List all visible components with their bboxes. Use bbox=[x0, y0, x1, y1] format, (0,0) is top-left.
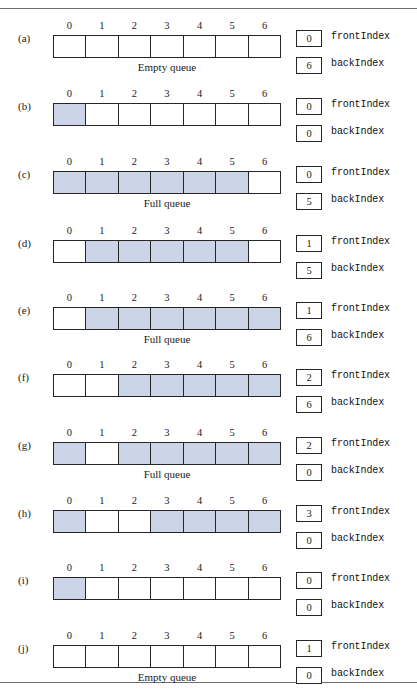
array-index-label: 4 bbox=[183, 20, 216, 31]
frontIndex-name-label: frontIndex bbox=[331, 370, 390, 381]
array-index-label: 6 bbox=[248, 225, 281, 236]
queue-row: (d)01234561frontIndex5backIndex bbox=[0, 225, 417, 293]
array-cell-occupied bbox=[184, 443, 216, 464]
array-index-label: 0 bbox=[53, 156, 86, 167]
array-cells bbox=[53, 510, 281, 533]
row-label: (j) bbox=[18, 642, 50, 654]
index-panel: 0frontIndex0backIndex bbox=[296, 98, 417, 150]
array-index-label: 1 bbox=[86, 427, 119, 438]
array-index-label: 5 bbox=[216, 562, 249, 573]
array-index-label: 4 bbox=[183, 292, 216, 303]
array-index-label: 3 bbox=[151, 88, 184, 99]
backIndex-entry: 5backIndex bbox=[296, 262, 417, 280]
array-cell-empty bbox=[54, 241, 86, 262]
frontIndex-value-box: 1 bbox=[296, 235, 322, 252]
array-cell-occupied bbox=[249, 308, 280, 329]
backIndex-entry: 0backIndex bbox=[296, 464, 417, 482]
index-panel: 1frontIndex6backIndex bbox=[296, 302, 417, 354]
array-index-label: 2 bbox=[118, 427, 151, 438]
array-cell-occupied bbox=[54, 511, 86, 532]
array-cell-occupied bbox=[86, 241, 118, 262]
array-cell-occupied bbox=[151, 308, 183, 329]
array-cell-occupied bbox=[151, 375, 183, 396]
index-panel: 3frontIndex0backIndex bbox=[296, 505, 417, 557]
array-index-label: 3 bbox=[151, 20, 184, 31]
array-index-label: 0 bbox=[53, 225, 86, 236]
array-cell-empty bbox=[86, 443, 118, 464]
array-index-label: 5 bbox=[216, 88, 249, 99]
array-cell-empty bbox=[249, 646, 280, 667]
array-cell-empty bbox=[151, 646, 183, 667]
array-cell-empty bbox=[54, 375, 86, 396]
array-index-label: 3 bbox=[151, 359, 184, 370]
backIndex-value-box: 0 bbox=[296, 599, 322, 616]
array-cell-empty bbox=[184, 104, 216, 125]
array-index-labels: 0123456 bbox=[53, 20, 281, 35]
array-cells bbox=[53, 240, 281, 263]
frontIndex-value-box: 0 bbox=[296, 166, 322, 183]
index-panel: 0frontIndex0backIndex bbox=[296, 572, 417, 624]
array-cell-empty bbox=[216, 36, 248, 57]
array-cell-empty bbox=[151, 36, 183, 57]
array-index-label: 3 bbox=[151, 225, 184, 236]
array-index-label: 5 bbox=[216, 427, 249, 438]
backIndex-name-label: backIndex bbox=[331, 397, 384, 408]
array-cell-empty bbox=[86, 646, 118, 667]
backIndex-entry: 0backIndex bbox=[296, 667, 417, 685]
queue-array: 0123456 bbox=[53, 156, 281, 202]
array-cell-occupied bbox=[249, 511, 280, 532]
backIndex-value-box: 0 bbox=[296, 532, 322, 549]
index-panel: 2frontIndex6backIndex bbox=[296, 369, 417, 421]
array-index-label: 6 bbox=[248, 292, 281, 303]
array-index-labels: 0123456 bbox=[53, 225, 281, 240]
array-index-label: 3 bbox=[151, 495, 184, 506]
backIndex-entry: 0backIndex bbox=[296, 599, 417, 617]
row-label: (g) bbox=[18, 439, 50, 451]
array-cell-empty bbox=[216, 646, 248, 667]
row-label: (h) bbox=[18, 507, 50, 519]
array-cell-empty bbox=[249, 36, 280, 57]
backIndex-entry: 5backIndex bbox=[296, 193, 417, 211]
frontIndex-name-label: frontIndex bbox=[331, 438, 390, 449]
array-index-label: 6 bbox=[248, 562, 281, 573]
array-index-label: 1 bbox=[86, 495, 119, 506]
frontIndex-entry: 1frontIndex bbox=[296, 235, 417, 253]
frontIndex-entry: 2frontIndex bbox=[296, 369, 417, 387]
array-cell-occupied bbox=[54, 172, 86, 193]
array-index-label: 6 bbox=[248, 630, 281, 641]
array-index-label: 2 bbox=[118, 88, 151, 99]
index-panel: 1frontIndex0backIndex bbox=[296, 640, 417, 691]
frontIndex-name-label: frontIndex bbox=[331, 31, 390, 42]
array-cell-empty bbox=[54, 308, 86, 329]
frontIndex-name-label: frontIndex bbox=[331, 573, 390, 584]
array-index-label: 6 bbox=[248, 495, 281, 506]
array-index-label: 4 bbox=[183, 156, 216, 167]
queue-array: 0123456 bbox=[53, 630, 281, 676]
row-label: (b) bbox=[18, 100, 50, 112]
array-cell-occupied bbox=[119, 308, 151, 329]
array-index-label: 1 bbox=[86, 156, 119, 167]
array-cells bbox=[53, 577, 281, 600]
array-index-label: 4 bbox=[183, 359, 216, 370]
array-index-label: 1 bbox=[86, 20, 119, 31]
array-index-label: 2 bbox=[118, 156, 151, 167]
array-cells bbox=[53, 103, 281, 126]
backIndex-value-box: 5 bbox=[296, 262, 322, 279]
array-index-label: 0 bbox=[53, 427, 86, 438]
array-cell-occupied bbox=[54, 443, 86, 464]
array-index-label: 6 bbox=[248, 88, 281, 99]
array-cell-occupied bbox=[151, 172, 183, 193]
index-panel: 0frontIndex6backIndex bbox=[296, 30, 417, 82]
frontIndex-entry: 1frontIndex bbox=[296, 302, 417, 320]
array-cell-occupied bbox=[184, 241, 216, 262]
array-cell-empty bbox=[249, 241, 280, 262]
array-cell-occupied bbox=[216, 443, 248, 464]
array-cell-empty bbox=[86, 511, 118, 532]
frontIndex-name-label: frontIndex bbox=[331, 99, 390, 110]
array-index-label: 5 bbox=[216, 225, 249, 236]
frontIndex-entry: 0frontIndex bbox=[296, 30, 417, 48]
array-cell-empty bbox=[184, 36, 216, 57]
array-index-label: 5 bbox=[216, 156, 249, 167]
frontIndex-name-label: frontIndex bbox=[331, 506, 390, 517]
frontIndex-entry: 0frontIndex bbox=[296, 572, 417, 590]
